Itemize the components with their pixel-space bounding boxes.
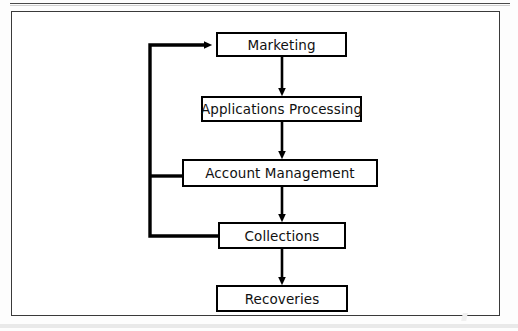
edge-collections-feedback-to-marketing [150, 45, 218, 236]
node-applications-processing-label: Applications Processing [201, 101, 362, 117]
page-top-rule [10, 3, 510, 4]
node-recoveries[interactable]: Recoveries [216, 285, 348, 312]
node-account-management[interactable]: Account Management [182, 159, 378, 187]
node-collections[interactable]: Collections [218, 222, 346, 249]
node-account-management-label: Account Management [205, 165, 355, 181]
node-collections-label: Collections [245, 228, 320, 244]
figure-page: Marketing Applications Processing Accoun… [0, 0, 518, 331]
node-applications-processing[interactable]: Applications Processing [201, 96, 362, 122]
node-marketing[interactable]: Marketing [216, 32, 347, 57]
node-marketing-label: Marketing [247, 37, 315, 53]
scan-artifact [461, 313, 468, 321]
node-recoveries-label: Recoveries [245, 291, 320, 307]
page-bottom-edge-shading [0, 324, 518, 328]
page-top-rule-shadow [10, 5, 510, 6]
figure-frame: Marketing Applications Processing Accoun… [11, 11, 500, 316]
